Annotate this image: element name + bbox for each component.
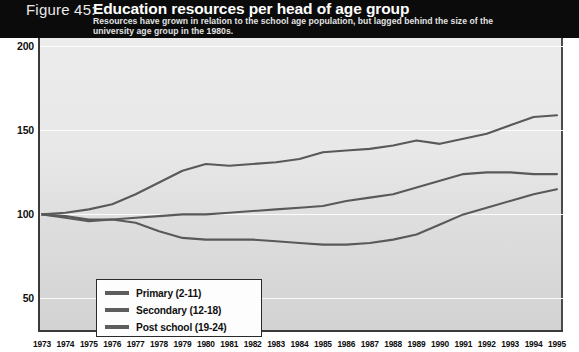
legend-swatch-icon-post-school: [105, 325, 129, 328]
x-axis-tick-1975: 1975: [80, 339, 98, 349]
x-axis-tick-1983: 1983: [267, 339, 285, 349]
legend-item-secondary: Secondary (12-18): [105, 302, 261, 318]
legend-item-primary: Primary (2-11): [105, 285, 261, 301]
chart-legend: Primary (2-11) Secondary (12-18) Post sc…: [96, 279, 262, 337]
y-axis-tick-50: 50: [2, 292, 34, 304]
x-axis-tick-1974: 1974: [56, 339, 74, 349]
x-axis-tick-1993: 1993: [501, 339, 519, 349]
series-line-post-school-19-24: [42, 189, 557, 244]
x-axis-tick-1977: 1977: [127, 339, 145, 349]
x-axis-tick-1984: 1984: [291, 339, 309, 349]
y-axis-tick-150: 150: [2, 124, 34, 136]
plot-area: Primary (2-11) Secondary (12-18) Post sc…: [40, 38, 563, 332]
y-axis-labels: 200 150 100 50: [0, 38, 36, 332]
legend-label-secondary: Secondary (12-18): [136, 305, 221, 316]
legend-label-primary: Primary (2-11): [136, 288, 201, 299]
figure-number: Figure 45:: [26, 1, 96, 18]
x-axis-tick-1981: 1981: [220, 339, 238, 349]
figure-header: Figure 45: Education resources per head …: [0, 0, 579, 38]
legend-swatch-icon-secondary: [105, 308, 129, 311]
figure-subtitle: Resources have grown in relation to the …: [93, 17, 513, 36]
x-axis-tick-1979: 1979: [174, 339, 192, 349]
figure-subtitle-line-2: university age group in the 1980s.: [93, 27, 513, 37]
x-axis-tick-1995: 1995: [548, 339, 566, 349]
series-line-secondary-12-18: [42, 172, 557, 219]
figure-container: Figure 45: Education resources per head …: [0, 0, 579, 352]
y-axis-tick-200: 200: [2, 40, 34, 52]
x-axis-tick-1978: 1978: [150, 339, 168, 349]
x-axis-labels: 1973197419751976197719781979198019811982…: [0, 339, 579, 352]
x-axis-tick-1982: 1982: [244, 339, 262, 349]
x-axis-tick-1973: 1973: [33, 339, 51, 349]
x-axis-tick-1987: 1987: [361, 339, 379, 349]
x-axis-tick-1976: 1976: [103, 339, 121, 349]
legend-item-post-school: Post school (19-24): [105, 319, 261, 335]
legend-swatch-icon-primary: [105, 291, 129, 294]
x-axis-tick-1986: 1986: [337, 339, 355, 349]
x-axis-tick-1994: 1994: [525, 339, 543, 349]
x-axis-tick-1990: 1990: [431, 339, 449, 349]
x-axis-tick-1980: 1980: [197, 339, 215, 349]
x-axis-tick-1991: 1991: [454, 339, 472, 349]
x-axis-tick-1988: 1988: [384, 339, 402, 349]
x-axis-tick-1989: 1989: [408, 339, 426, 349]
legend-label-post-school: Post school (19-24): [136, 322, 227, 333]
series-line-primary-2-11: [42, 115, 557, 214]
x-axis-tick-1992: 1992: [478, 339, 496, 349]
y-axis-tick-100: 100: [2, 208, 34, 220]
x-axis-tick-1985: 1985: [314, 339, 332, 349]
